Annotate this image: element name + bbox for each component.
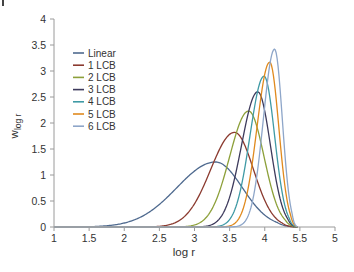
x-tick-label: 3 [192, 232, 198, 244]
series-line-linear [54, 162, 298, 227]
x-tick-label: 4 [262, 232, 268, 244]
x-tick-label: 1 [51, 232, 57, 244]
x-tick-label: 5 [332, 232, 338, 244]
legend: Linear1 LCB2 LCB3 LCB4 LCB5 LCB6 LCB [73, 48, 116, 132]
y-tick-label: 2 [40, 117, 46, 129]
y-tick-label: 0.5 [31, 195, 46, 207]
y-tick-label: 1 [40, 169, 46, 181]
x-tick-label: 2.5 [152, 232, 167, 244]
y-tick-label: 0 [40, 221, 46, 233]
y-tick-label: 3.5 [31, 39, 46, 51]
legend-label: Linear [88, 48, 116, 59]
axes: 00.511.522.533.54 11.522.533.545.55 [31, 13, 338, 244]
x-ticks: 11.522.533.545.55 [51, 227, 338, 244]
legend-label: 6 LCB [88, 121, 116, 132]
x-tick-label: 3.5 [222, 232, 237, 244]
x-axis-title: log r [173, 246, 196, 258]
x-tick-label: 5.5 [293, 232, 308, 244]
y-tick-label: 2.5 [31, 91, 46, 103]
y-ticks: 00.511.522.533.54 [31, 13, 54, 233]
legend-label: 1 LCB [88, 60, 116, 71]
legend-label: 5 LCB [88, 109, 116, 120]
y-tick-label: 4 [40, 13, 46, 25]
y-tick-label: 1.5 [31, 143, 46, 155]
y-axis-title: wlog r [8, 113, 23, 139]
legend-label: 2 LCB [88, 72, 116, 83]
x-tick-label: 1.5 [82, 232, 97, 244]
legend-label: 3 LCB [88, 84, 116, 95]
line-chart: 00.511.522.533.54 11.522.533.545.55 Line… [0, 0, 354, 272]
x-tick-label: 2 [121, 232, 127, 244]
y-tick-label: 3 [40, 65, 46, 77]
legend-label: 4 LCB [88, 96, 116, 107]
